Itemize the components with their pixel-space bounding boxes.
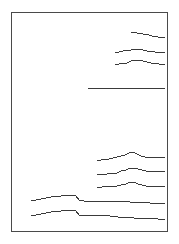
trace-line-9	[31, 210, 165, 219]
trace-line-8	[31, 195, 165, 203]
trace-line-1	[131, 32, 165, 37]
trace-line-6	[97, 168, 165, 174]
figure-root	[0, 0, 179, 244]
trace-group	[31, 32, 165, 219]
trace-line-5	[97, 152, 165, 161]
trace-canvas	[0, 0, 179, 244]
trace-line-3	[115, 60, 165, 64]
trace-line-7	[97, 182, 165, 187]
trace-line-2	[115, 49, 165, 52]
